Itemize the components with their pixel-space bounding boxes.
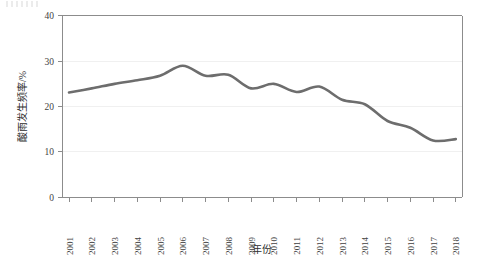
y-tick-label: 10: [45, 147, 55, 157]
scan-artifact: [6, 1, 40, 7]
x-tick-label: 2005: [156, 237, 166, 256]
x-tick-label: 2001: [65, 237, 75, 255]
y-tick-label: 30: [45, 57, 55, 67]
y-axis-title: 酸雨发生频率/%: [16, 71, 28, 142]
x-tick-label: 2014: [360, 237, 370, 256]
x-tick-label: 2012: [315, 237, 325, 255]
x-tick-label: 2002: [87, 237, 97, 255]
y-tick-label: 40: [45, 11, 55, 21]
x-tick-label: 2006: [178, 237, 188, 256]
x-tick-label: 2015: [383, 237, 393, 256]
x-tick-label: 2004: [133, 237, 143, 256]
x-tick-label: 2016: [406, 237, 416, 256]
x-axis-title: 年份: [252, 243, 272, 255]
x-tick-label: 2008: [224, 237, 234, 256]
acid-rain-frequency-chart: 40 30 20 10 0 酸雨发生频率/%: [0, 0, 477, 262]
x-axis-ticks: [69, 197, 456, 202]
x-tick-label: 2013: [338, 237, 348, 256]
y-tick-label: 0: [49, 193, 54, 203]
chart-canvas: 40 30 20 10 0 酸雨发生频率/%: [0, 0, 477, 262]
x-tick-label: 2007: [201, 237, 211, 256]
y-axis-tick-labels: 40 30 20 10 0: [45, 11, 55, 202]
y-tick-label: 20: [45, 102, 55, 112]
x-tick-label: 2011: [292, 237, 302, 255]
y-axis-title-group: 酸雨发生频率/%: [16, 71, 28, 142]
y-axis-ticks: [58, 16, 63, 197]
x-tick-label: 2018: [451, 237, 461, 256]
gridlines: [63, 61, 463, 152]
x-tick-label: 2003: [110, 237, 120, 256]
x-tick-label: 2017: [429, 237, 439, 256]
data-series-acid-rain-frequency: [69, 66, 456, 141]
